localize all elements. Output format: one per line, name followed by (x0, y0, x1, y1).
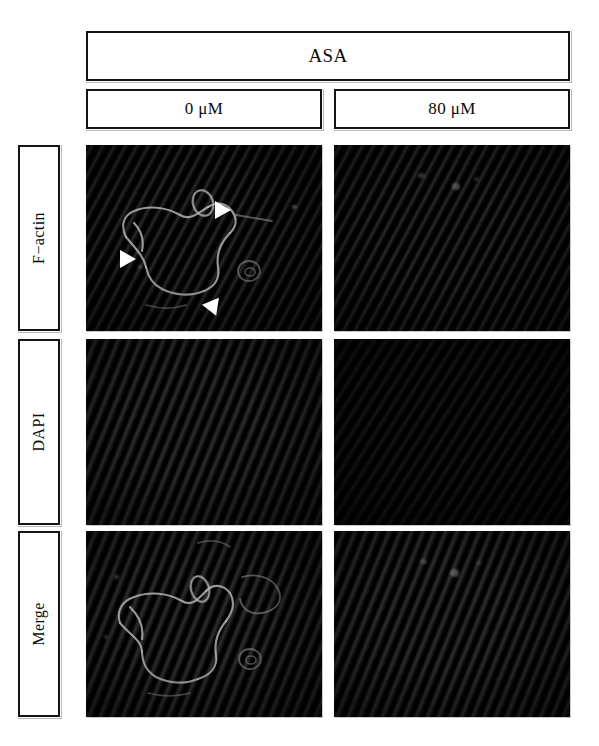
bright-speck (476, 561, 481, 565)
figure-panel-grid: ASA 0 μM 80 μM F−actin DAPI Merge (0, 0, 599, 746)
arrowhead-marker-2 (120, 250, 136, 268)
row-label-dapi-text: DAPI (30, 413, 48, 452)
scanline-texture (334, 145, 570, 331)
micrograph-merge-80um (334, 531, 570, 717)
bright-speck (420, 559, 427, 564)
bright-speck (138, 265, 142, 269)
bright-speck (114, 575, 119, 579)
micrograph-merge-0um (86, 531, 322, 717)
treatment-header: ASA (86, 31, 570, 81)
scanline-texture (334, 531, 570, 717)
arrowhead-marker-1 (215, 201, 231, 219)
row-label-dapi: DAPI (18, 339, 60, 525)
row-label-f-actin-text: F−actin (30, 212, 48, 264)
merge-cell-outlines (86, 531, 322, 717)
bright-speck (474, 177, 479, 181)
micrograph-f-actin-80um (334, 145, 570, 331)
bright-speck (450, 569, 459, 577)
row-label-merge: Merge (18, 531, 60, 717)
bright-speck (292, 205, 297, 209)
column-header-dose-0: 0 μM (86, 89, 322, 129)
scanline-texture (86, 339, 322, 525)
column-header-dose-80: 80 μM (334, 89, 570, 129)
micrograph-f-actin-0um (86, 145, 322, 331)
micrograph-dapi-0um (86, 339, 322, 525)
micrograph-dapi-80um (334, 339, 570, 525)
bright-speck (452, 183, 460, 190)
bright-speck (418, 173, 425, 178)
row-label-merge-text: Merge (30, 602, 48, 645)
row-label-f-actin: F−actin (18, 145, 60, 331)
bright-speck (104, 635, 108, 639)
scanline-texture (334, 339, 570, 525)
